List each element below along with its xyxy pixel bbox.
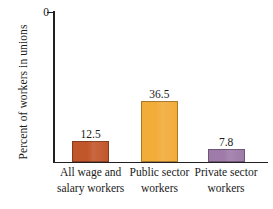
bar-2: 7.8 bbox=[208, 149, 245, 162]
plot-area: 90 80 70 60 50 40 bbox=[53, 12, 268, 162]
bar-value-label: 36.5 bbox=[149, 88, 169, 100]
category-line: workers bbox=[183, 181, 269, 197]
y-tick-label: 0 bbox=[43, 5, 49, 20]
bar-0: 12.5 bbox=[72, 141, 109, 162]
bar-1: 36.5 bbox=[141, 101, 178, 162]
y-axis-title: Percent of workers in unions bbox=[14, 12, 32, 172]
bar-value-label: 12.5 bbox=[81, 128, 101, 140]
y-tick-label: 10 bbox=[38, 0, 50, 3]
category-line: Private sector bbox=[183, 165, 269, 181]
bar-chart: Percent of workers in unions 90 80 70 60 bbox=[0, 0, 273, 209]
bar-value-label: 7.8 bbox=[219, 136, 233, 148]
x-category-label-2: Private sector workers bbox=[183, 165, 269, 196]
